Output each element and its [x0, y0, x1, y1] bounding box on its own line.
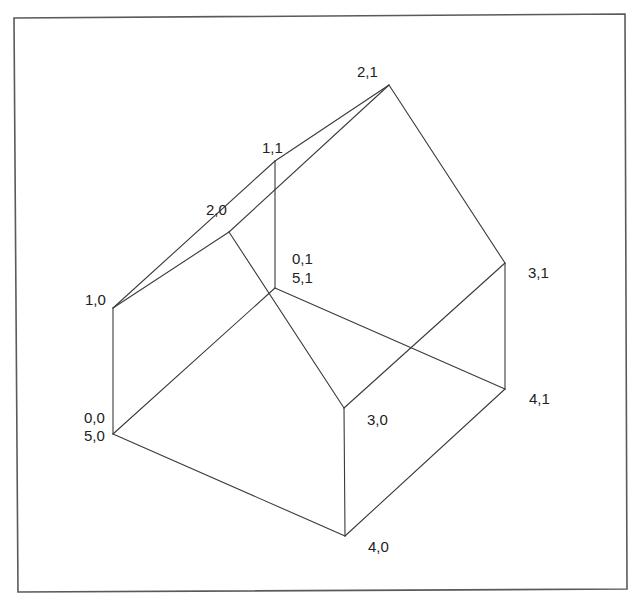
- edge-1-0-to-1-1: [113, 161, 275, 308]
- edge-0-0-to-0-1: [113, 288, 275, 434]
- vertex-label: 2,1: [357, 63, 378, 80]
- diagram-frame: [14, 14, 627, 592]
- vertex-label: 5,0: [84, 427, 105, 444]
- edge-2-1-to-3-1: [389, 85, 505, 263]
- vertex-label: 2,0: [206, 201, 227, 218]
- vertex-label: 5,1: [292, 269, 313, 286]
- edge-1-1-to-2-1: [275, 85, 389, 161]
- vertex-label: 0,1: [292, 250, 313, 267]
- house-wireframe-diagram: 1,00,05,02,01,10,15,12,13,13,04,14,0: [0, 0, 644, 612]
- edge-1-0-to-2-0: [113, 232, 229, 308]
- edges-group: [113, 85, 505, 536]
- vertex-label: 3,0: [367, 411, 388, 428]
- vertex-label: 4,1: [529, 390, 550, 407]
- vertex-labels-group: 1,00,05,02,01,10,15,12,13,13,04,14,0: [84, 63, 550, 555]
- edge-3-0-to-4-0: [344, 408, 345, 536]
- vertex-label: 0,0: [84, 409, 105, 426]
- vertex-label: 1,0: [85, 291, 106, 308]
- edge-2-0-to-2-1: [229, 85, 389, 232]
- edge-4-0-to-0-0: [113, 434, 345, 536]
- edge-4-1-to-0-1: [275, 288, 505, 389]
- vertex-label: 3,1: [528, 264, 549, 281]
- edge-2-0-to-3-0: [229, 232, 344, 408]
- vertex-label: 4,0: [368, 538, 389, 555]
- vertex-label: 1,1: [262, 139, 283, 156]
- edge-3-0-to-3-1: [344, 263, 505, 408]
